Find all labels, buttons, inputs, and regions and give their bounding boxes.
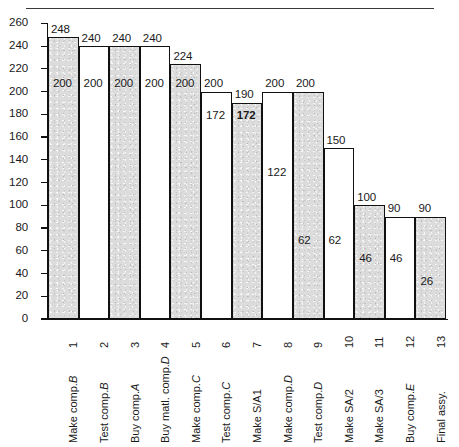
bar-7-lower-value: 172 [237,110,256,122]
bar-4-upper-value: 240 [143,33,162,45]
plot-area [48,23,446,319]
bar-6-lower-value: 172 [206,110,225,122]
bar-9-lower-value: 62 [298,235,311,247]
bar-4-lower-value: 200 [145,78,164,90]
y-tick-mark [41,227,47,228]
category-label-5: Make comp.C [191,375,202,443]
bar-12-upper-value: 90 [388,203,401,215]
bar-13[interactable] [415,217,446,319]
category-number-10: 10 [344,336,355,348]
y-tick-mark [41,91,47,92]
bar-13-upper-value: 90 [418,203,431,215]
y-tick-label: 20 [0,290,28,302]
category-number-8: 8 [283,342,294,348]
bar-5-lower-value: 200 [175,78,194,90]
category-number-6: 6 [221,342,232,348]
bar-6-upper-value: 200 [204,78,223,90]
category-label-4: Buy matl. comp.D [160,356,171,443]
category-label-13: Final assy. [436,391,447,443]
y-tick-mark [41,296,47,297]
category-label-12: Buy comp.E [405,384,416,443]
y-tick-mark [41,318,47,319]
category-number-7: 7 [252,342,263,348]
y-tick-label: 220 [0,63,28,75]
category-number-5: 5 [191,342,202,348]
y-tick-mark [41,205,47,206]
bar-1-upper-value: 248 [51,24,70,36]
y-tick-label: 180 [0,108,28,120]
bar-11-upper-value: 100 [357,192,376,204]
bar-7[interactable] [232,103,263,319]
category-number-11: 11 [374,337,385,348]
category-label-6: Test comp.C [221,382,232,443]
category-number-3: 3 [130,342,141,348]
y-tick-mark [41,250,47,251]
y-tick-mark [41,46,47,47]
category-label-8: Make comp.D [283,375,294,443]
category-number-4: 4 [160,342,171,348]
category-label-2: Test comp.B [99,382,110,443]
bar-12-lower-value: 46 [390,253,403,265]
category-number-1: 1 [68,342,79,348]
bar-11-lower-value: 46 [359,253,372,265]
bar-8-upper-value: 200 [265,78,284,90]
bar-10-lower-value: 62 [329,235,342,247]
bar-9[interactable] [293,92,324,319]
category-label-10: Make SA/2 [344,389,355,443]
y-tick-mark [41,114,47,115]
bar-13-lower-value: 26 [420,276,433,288]
category-label-1: Make comp.B [68,376,79,443]
bar-7-upper-value: 190 [235,89,254,101]
bar-5[interactable] [170,64,201,319]
bar-3-upper-value: 240 [112,33,131,45]
category-label-3: Buy comp.A [130,384,141,443]
bar-1-lower-value: 200 [53,78,72,90]
y-tick-mark [41,182,47,183]
bar-10-upper-value: 150 [327,135,346,147]
y-tick-label: 140 [0,154,28,166]
y-tick-mark [41,23,47,24]
category-label-11: Make SA/3 [374,389,385,443]
bar-5-upper-value: 224 [173,51,192,63]
y-tick-mark [41,136,47,137]
category-number-12: 12 [405,336,416,348]
y-tick-label: 40 [0,268,28,280]
y-tick-label: 240 [0,40,28,52]
bar-9-upper-value: 200 [296,78,315,90]
y-axis-ticks: 020406080100120140160180200220240260 [0,0,48,447]
bar-2-lower-value: 200 [84,78,103,90]
category-label-7: Make S/A1 [252,389,263,443]
y-tick-label: 120 [0,177,28,189]
category-number-13: 13 [436,336,447,348]
y-tick-label: 200 [0,86,28,98]
bar-12[interactable] [385,217,416,319]
bar-8-lower-value: 122 [267,167,286,179]
y-tick-label: 100 [0,199,28,211]
category-label-9: Test comp.D [313,382,324,443]
x-axis-line [44,319,448,320]
y-tick-label: 260 [0,17,28,29]
y-tick-mark [41,68,47,69]
bar-3-lower-value: 200 [114,78,133,90]
y-tick-label: 160 [0,131,28,143]
y-tick-label: 60 [0,245,28,257]
y-tick-mark [41,273,47,274]
y-tick-label: 0 [0,313,28,325]
bar-2-upper-value: 240 [82,33,101,45]
range-bar-chart: 020406080100120140160180200220240260 1Ma… [0,0,459,447]
bar-6[interactable] [201,92,232,319]
y-tick-mark [41,159,47,160]
y-tick-label: 80 [0,222,28,234]
category-number-9: 9 [313,342,324,348]
bar-8[interactable] [262,92,293,319]
category-number-2: 2 [99,342,110,348]
